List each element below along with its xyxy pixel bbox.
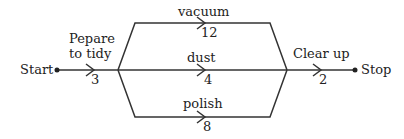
dust-label: dust: [187, 51, 216, 65]
start-node-icon: [55, 68, 60, 73]
stop-node-icon: [353, 68, 358, 73]
polish-label: polish: [183, 97, 223, 111]
vacuum-label: vacuum: [178, 5, 229, 19]
dust-duration: 4: [204, 73, 212, 87]
stop-label: Stop: [361, 63, 391, 77]
prepare-duration: 3: [91, 73, 99, 87]
clear-up-label: Clear up: [293, 47, 350, 61]
prepare-label-1: Pepare: [69, 32, 115, 46]
prepare-label-2: to tidy: [69, 47, 111, 61]
clear-up-duration: 2: [319, 73, 327, 87]
polish-duration: 8: [203, 120, 211, 134]
start-label: Start: [20, 63, 53, 77]
network-diagram: [0, 0, 404, 139]
vacuum-duration: 12: [201, 26, 218, 40]
